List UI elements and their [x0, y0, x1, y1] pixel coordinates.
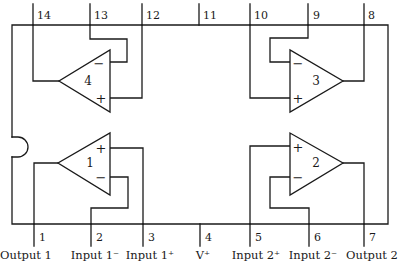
pin-label-input-2-minus: Input 2⁻ [289, 248, 337, 262]
pin-number-12: 12 [146, 9, 160, 22]
op-amp-3: − + 3 [290, 50, 343, 112]
pin-number-5: 5 [255, 231, 262, 244]
pin-label-input-1-plus: Input 1⁺ [126, 248, 174, 262]
top-pin-numbers: 14 13 12 11 10 9 8 [37, 9, 375, 22]
pin-label-output-2: Output 2 [346, 248, 398, 262]
amp1-label: 1 [86, 156, 94, 170]
pin-number-11: 11 [203, 9, 217, 22]
amp2-minus-sign: − [293, 170, 304, 185]
op-amp-4: − + 4 [59, 50, 110, 112]
amp1-plus-wire [110, 148, 143, 224]
pin-number-9: 9 [313, 9, 320, 22]
amp1-output-wire [34, 163, 58, 224]
pin-number-4: 4 [205, 231, 212, 244]
amp4-label: 4 [84, 74, 92, 88]
amp3-minus-sign: − [293, 56, 304, 71]
bottom-pin-labels: Output 1 Input 1⁻ Input 1⁺ V⁺ Input 2⁺ I… [0, 248, 398, 262]
pin-label-v-plus: V⁺ [195, 248, 210, 262]
amp4-plus-sign: + [96, 91, 107, 106]
orientation-notch [12, 137, 28, 157]
pin-label-input-2-plus: Input 2⁺ [232, 248, 280, 262]
pin-number-6: 6 [314, 231, 321, 244]
amp1-plus-sign: + [96, 141, 107, 156]
package-outline [12, 25, 388, 224]
internal-wiring [33, 25, 364, 224]
amp4-minus-sign: − [94, 56, 105, 71]
pin-number-14: 14 [37, 9, 51, 22]
pin-number-13: 13 [94, 9, 108, 22]
pin-label-output-1: Output 1 [0, 248, 52, 262]
pin-number-2: 2 [96, 231, 103, 244]
amp1-minus-sign: − [96, 170, 107, 185]
pin-number-7: 7 [369, 231, 376, 244]
amp2-output-wire [343, 163, 364, 224]
pin-number-3: 3 [148, 231, 155, 244]
pin-number-1: 1 [39, 231, 46, 244]
amp3-plus-sign: + [293, 91, 304, 106]
pin-number-8: 8 [368, 9, 375, 22]
amp4-output-wire [33, 25, 60, 81]
op-amp-1: + − 1 [58, 133, 110, 195]
amp2-plus-sign: + [293, 140, 304, 155]
pin-number-10: 10 [254, 9, 268, 22]
amp2-label: 2 [312, 156, 320, 170]
pin-label-input-1-minus: Input 1⁻ [71, 248, 119, 262]
op-amp-2: + − 2 [290, 133, 343, 195]
pinout-diagram: − + 4 − + 3 + − 1 + − 2 14 13 12 11 10 9… [0, 0, 400, 263]
amp3-label: 3 [312, 74, 320, 88]
amp3-output-wire [343, 25, 364, 81]
bottom-pin-numbers: 1 2 3 4 5 6 7 [39, 231, 376, 244]
